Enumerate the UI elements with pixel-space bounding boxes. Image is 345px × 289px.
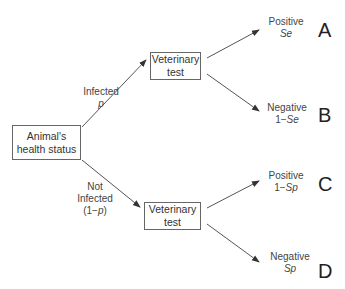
outcome-c-label: Positive 1−Sp [264, 170, 308, 194]
outcome-d-letter: D [318, 260, 332, 283]
arrow-bottom-negative [207, 224, 259, 262]
not-infected-label: Not Infected (1−p) [72, 181, 118, 217]
outcome-a-label: Positive Se [264, 16, 308, 40]
outcome-a-letter: A [318, 19, 331, 42]
veterinary-test-bottom: Veterinary test [144, 202, 201, 230]
root-node: Animal's health status [12, 125, 81, 160]
arrow-bottom-positive [207, 181, 259, 208]
arrow-top-negative [207, 74, 259, 111]
outcome-d-label: Negative Sp [267, 251, 313, 275]
outcome-b-label: Negative 1−Se [264, 102, 310, 126]
outcome-b-letter: B [318, 104, 331, 127]
infected-label: Infected p [78, 86, 124, 110]
outcome-c-letter: C [318, 173, 332, 196]
veterinary-test-top: Veterinary test [150, 52, 201, 80]
arrow-top-positive [207, 30, 259, 58]
